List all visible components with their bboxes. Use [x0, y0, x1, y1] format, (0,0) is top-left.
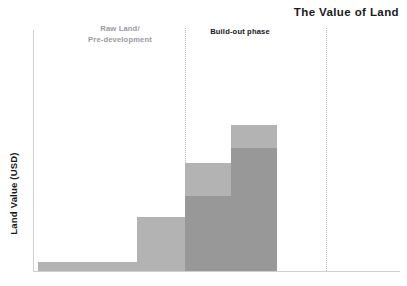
phase-label-build-out: Build-out phase — [192, 27, 288, 38]
phase-divider-stabilized — [326, 28, 328, 271]
chart-canvas: The Value of Land Land Value (USD) Raw L… — [0, 0, 407, 286]
bar-stage-4 — [231, 125, 277, 271]
bar-segment-uplift — [231, 125, 277, 148]
bar-segment-uplift — [185, 163, 231, 196]
bar-stage-1 — [38, 262, 137, 271]
phase-label-raw-land: Raw Land/ Pre-development — [61, 24, 179, 45]
bar-segment-uplift — [38, 262, 137, 271]
x-axis-line — [33, 271, 400, 272]
chart-title: The Value of Land — [294, 6, 399, 18]
bar-stage-2 — [137, 217, 185, 271]
bar-stage-3 — [185, 163, 231, 271]
bar-segment-developed-base — [185, 196, 231, 271]
bar-segment-uplift — [137, 217, 185, 271]
y-axis-label: Land Value (USD) — [8, 134, 19, 254]
bar-segment-developed-base — [231, 148, 277, 271]
y-axis-line — [33, 30, 34, 271]
